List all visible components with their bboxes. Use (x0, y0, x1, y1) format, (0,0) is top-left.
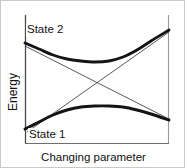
adiabatic-branch-lower (25, 106, 169, 129)
y-axis-title: Energy (6, 73, 20, 111)
state-2-label: State 2 (26, 23, 65, 37)
state-1-label: State 1 (28, 128, 67, 142)
avoided-crossing-figure: Energy State 2 State 1 Changing paramete… (0, 0, 185, 168)
x-axis-title: Changing parameter (1, 152, 185, 164)
